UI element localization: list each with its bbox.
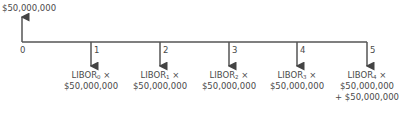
cashflow-label-4: LIBOR3 × $50,000,000 bbox=[270, 70, 324, 92]
period-label-3: 3 bbox=[232, 45, 237, 56]
cashflow-label-2: LIBOR1 × $50,000,000 bbox=[133, 70, 187, 92]
cashflow-label-5: LIBOR4 × $50,000,000 + $50,000,000 bbox=[335, 70, 399, 103]
period-label-0: 0 bbox=[20, 45, 25, 56]
cashflow-label-1: LIBOR0 × $50,000,000 bbox=[64, 70, 118, 92]
inflow-amount: $50,000,000 bbox=[2, 3, 56, 14]
period-label-2: 2 bbox=[163, 45, 168, 56]
period-label-4: 4 bbox=[300, 45, 305, 56]
cashflow-label-3: LIBOR2 × $50,000,000 bbox=[202, 70, 256, 92]
period-label-5: 5 bbox=[370, 45, 375, 56]
period-label-1: 1 bbox=[94, 45, 99, 56]
